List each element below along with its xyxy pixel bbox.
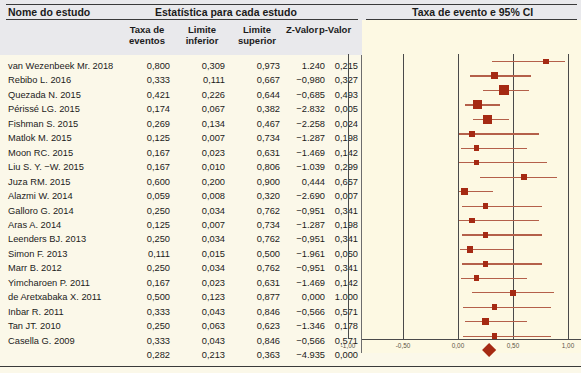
stat-cell: 0,806	[234, 162, 280, 172]
confidence-interval-line	[463, 336, 551, 337]
gridline	[458, 54, 459, 339]
confidence-interval-line	[461, 278, 528, 279]
stat-cell: 0,467	[234, 119, 280, 129]
stat-cell: 0,111	[124, 249, 170, 259]
effect-size-marker	[473, 100, 482, 109]
col-header-2: Limitesuperior	[234, 24, 280, 46]
col-header-0: Taxa deeventos	[124, 24, 170, 46]
stat-cell: 0,000	[312, 350, 358, 360]
stat-cell: 0,034	[179, 234, 225, 244]
study-name-cell: Moon RC. 2015	[8, 148, 73, 158]
stat-cell: 0,134	[179, 119, 225, 129]
stat-cell: 0,111	[179, 75, 225, 85]
stat-cell: 0,043	[179, 336, 225, 346]
col-header-line2: superior	[234, 35, 280, 46]
study-name-cell: Quezada N. 2015	[8, 90, 81, 100]
forest-plot-area: -1,00-0,500,000,501,00	[362, 20, 581, 353]
stat-cell: 0,250	[124, 206, 170, 216]
stat-cell: 0,067	[179, 104, 225, 114]
effect-size-marker	[467, 246, 473, 252]
stat-cell: 0,167	[124, 278, 170, 288]
stat-cell: 0,333	[124, 307, 170, 317]
confidence-interval-line	[470, 75, 531, 76]
confidence-interval-line	[461, 148, 528, 149]
confidence-interval-line	[492, 61, 565, 62]
stat-cell: 0,198	[312, 133, 358, 143]
study-name-cell: Tan JT. 2010	[8, 321, 61, 331]
table-top-rule	[6, 4, 577, 5]
plot-axis-line	[362, 339, 581, 340]
stat-cell: 0,762	[234, 206, 280, 216]
stat-cell: 0,123	[179, 292, 225, 302]
effect-size-marker	[499, 85, 509, 95]
stat-cell: 0,667	[234, 75, 280, 85]
study-name-cell: Aras A. 2014	[8, 220, 61, 230]
stat-cell: 0,050	[312, 249, 358, 259]
stat-cell: 0,282	[124, 350, 170, 360]
stat-cell: 0,250	[124, 234, 170, 244]
gridline	[348, 54, 349, 339]
stat-cell: 0,200	[179, 177, 225, 187]
stat-cell: 0,900	[234, 177, 280, 187]
stat-cell: 0,250	[124, 263, 170, 273]
stat-cell: 0,333	[124, 75, 170, 85]
stat-cell: 0,341	[312, 263, 358, 273]
stat-cell: 0,299	[312, 162, 358, 172]
stat-cell: 0,846	[234, 336, 280, 346]
stat-cell: 0,973	[234, 61, 280, 71]
col-header-line1: Limite	[179, 24, 225, 35]
stat-cell: 0,269	[124, 119, 170, 129]
stat-cell: 0,023	[179, 148, 225, 158]
study-name-cell: de Aretxabaka X. 2011	[8, 292, 101, 302]
study-name-cell: Inbar R. 2011	[8, 307, 64, 317]
stat-cell: 0,734	[234, 133, 280, 143]
effect-size-marker	[474, 160, 480, 166]
stat-cell: 0,327	[312, 75, 358, 85]
tick-label: -1,00	[341, 342, 356, 349]
confidence-interval-line	[480, 177, 557, 178]
col-header-line1: Taxa de	[124, 24, 170, 35]
confidence-interval-line	[459, 162, 547, 163]
stat-cell: 0,043	[179, 307, 225, 317]
col-header-4: p-Valor	[312, 24, 358, 35]
col-header-line2: inferior	[179, 35, 225, 46]
effect-size-marker	[483, 203, 489, 209]
stat-cell: 0,341	[312, 234, 358, 244]
study-name-cell: Matlok M. 2015	[8, 133, 72, 143]
stat-cell: 0,063	[179, 321, 225, 331]
stat-cell: 0,309	[179, 61, 225, 71]
stat-cell: 0,644	[234, 90, 280, 100]
stat-cell: 0,007	[179, 133, 225, 143]
gridline	[568, 54, 569, 339]
stat-cell: 0,500	[234, 249, 280, 259]
effect-size-marker	[461, 188, 467, 194]
stat-cell: 0,059	[124, 191, 170, 201]
stat-cell: 0,846	[234, 307, 280, 317]
stat-cell: 0,015	[179, 249, 225, 259]
effect-size-marker	[482, 318, 489, 325]
confidence-interval-line	[465, 104, 500, 105]
effect-size-marker	[483, 261, 489, 267]
stat-cell: 0,226	[179, 90, 225, 100]
tick-label: 0,00	[452, 342, 464, 349]
stat-cell: 0,213	[179, 350, 225, 360]
study-name-cell: Galloro G. 2014	[8, 206, 74, 216]
effect-size-marker	[483, 232, 489, 238]
confidence-interval-line	[462, 263, 542, 264]
study-name-cell: Périssé LG. 2015	[8, 104, 80, 114]
stat-cell: 0,215	[312, 61, 358, 71]
stat-cell: 0,010	[179, 162, 225, 172]
stat-cell: 0,320	[234, 191, 280, 201]
confidence-interval-line	[462, 206, 542, 207]
study-name-cell: Simon F. 2013	[8, 249, 67, 259]
study-name-cell: Rebibo L. 2016	[8, 75, 71, 85]
effect-size-marker	[469, 131, 475, 137]
study-name-cell: Juza RM. 2015	[8, 177, 71, 187]
effect-size-marker	[474, 275, 480, 281]
stat-cell: 0,493	[312, 90, 358, 100]
stat-cell: 0,024	[312, 119, 358, 129]
stat-cell: 0,125	[124, 220, 170, 230]
stat-cell: 0,023	[179, 278, 225, 288]
stat-cell: 0,007	[312, 191, 358, 201]
study-name-cell: Yimcharoen P. 2011	[8, 278, 90, 288]
